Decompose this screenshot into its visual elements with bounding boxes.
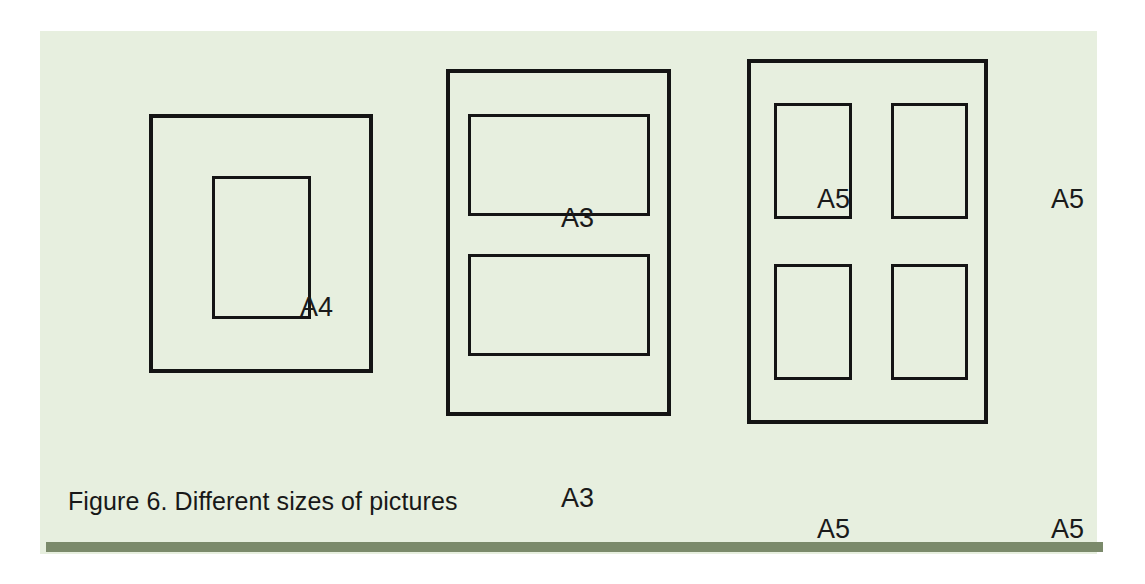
picture-label-a5-top-left: A5	[817, 186, 850, 213]
picture-a3-top: A3	[468, 114, 650, 216]
picture-label-a4: A4	[300, 294, 333, 321]
picture-a3-bottom: A3	[468, 254, 650, 356]
picture-a5-top-left: A5	[774, 103, 852, 219]
figure-panel: A4 A3 A3 A5 A5 A5 A5 Figure 6. Different…	[40, 31, 1097, 554]
picture-a5-bottom-left: A5	[774, 264, 852, 380]
figure-caption: Figure 6. Different sizes of pictures	[68, 487, 458, 516]
picture-label-a5-top-right: A5	[1051, 186, 1084, 213]
picture-label-a3-bottom: A3	[561, 485, 594, 512]
picture-a4: A4	[212, 176, 311, 319]
picture-label-a5-bottom-right: A5	[1051, 516, 1084, 543]
picture-a5-bottom-right: A5	[891, 264, 968, 380]
picture-frame-a4: A4	[149, 114, 373, 373]
horizontal-rule	[46, 542, 1103, 552]
picture-frame-a3: A3 A3	[446, 69, 671, 416]
picture-frame-a5: A5 A5 A5 A5	[747, 59, 988, 424]
picture-label-a5-bottom-left: A5	[817, 516, 850, 543]
picture-a5-top-right: A5	[891, 103, 968, 219]
picture-label-a3-top: A3	[561, 205, 594, 232]
